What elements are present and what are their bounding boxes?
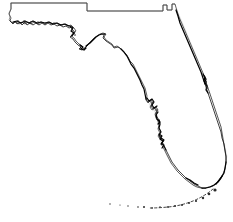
barrier-island-dot [151, 102, 153, 104]
barrier-island-dot [71, 29, 73, 31]
barrier-island-dot [17, 20, 19, 22]
florida-outline-map [0, 0, 233, 222]
barrier-island-dot [74, 34, 76, 36]
barrier-island-dot [30, 21, 31, 22]
key-island-dot [137, 206, 139, 208]
key-island-dot [181, 204, 183, 206]
key-island-dot [174, 205, 176, 207]
key-island-dot [119, 204, 120, 205]
barrier-island-dot [206, 87, 208, 89]
key-island-dot [127, 205, 128, 206]
barrier-island-dot [53, 22, 54, 23]
key-island-dot [213, 188, 216, 191]
barrier-island-dot [205, 81, 207, 83]
key-island-dot [143, 206, 145, 208]
key-island-dot [188, 202, 190, 204]
key-island-dot [195, 200, 197, 202]
key-island-dot [202, 197, 204, 199]
barrier-island-dot [159, 136, 161, 138]
barrier-island-dot [45, 22, 46, 23]
barrier-island-dot [162, 143, 164, 145]
key-island-dot [167, 206, 169, 208]
barrier-island-dot [23, 20, 24, 21]
key-island-dot [151, 207, 153, 209]
key-island-dot [159, 206, 161, 208]
barrier-island-dot [61, 24, 62, 25]
barrier-island-dot [155, 109, 157, 111]
key-island-dot [109, 203, 110, 204]
map-canvas [0, 0, 233, 222]
key-island-dot [208, 193, 211, 196]
barrier-island-dot [37, 21, 38, 22]
